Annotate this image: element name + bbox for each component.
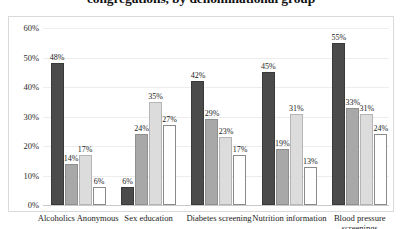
bar-value-label: 17%	[233, 145, 248, 154]
bar-value-label: 45%	[261, 62, 276, 71]
bar	[290, 114, 303, 205]
chart-title: congregations, by denominational group	[0, 0, 402, 6]
bar-column: 14%	[65, 28, 78, 205]
bar-group-bars: 42%29%23%17%	[184, 28, 254, 205]
axis-baseline	[43, 205, 389, 206]
bar-column: 24%	[374, 28, 387, 205]
bar-column: 31%	[360, 28, 373, 205]
bar-group-bars: 48%14%17%6%	[43, 28, 113, 205]
bar-column: 24%	[135, 28, 148, 205]
bar-group: 42%29%23%17%	[184, 28, 254, 205]
bar-column: 17%	[233, 28, 246, 205]
bar-value-label: 6%	[94, 177, 105, 186]
bar-value-label: 24%	[373, 124, 388, 133]
bar-column: 13%	[304, 28, 317, 205]
bar-value-label: 48%	[50, 53, 65, 62]
bar-column: 6%	[93, 28, 106, 205]
bar-column: 42%	[191, 28, 204, 205]
bar-column: 55%	[332, 28, 345, 205]
y-axis-tick-label: 0%	[9, 200, 39, 210]
bar-value-label: 35%	[148, 92, 163, 101]
bar-value-label: 31%	[359, 104, 374, 113]
bar-column: 48%	[51, 28, 64, 205]
bar-value-label: 17%	[78, 145, 93, 154]
bar-column: 29%	[205, 28, 218, 205]
bar-column: 19%	[276, 28, 289, 205]
bar	[233, 155, 246, 205]
category-label: Blood pressure screenings	[319, 214, 401, 229]
bar-group: 55%33%31%24%	[325, 28, 395, 205]
bar	[191, 81, 204, 205]
bar-value-label: 13%	[303, 157, 318, 166]
bar-column: 23%	[219, 28, 232, 205]
plot-area: 48%14%17%6%6%24%35%27%42%29%23%17%45%19%…	[43, 28, 395, 205]
bar	[93, 187, 106, 205]
bar-value-label: 19%	[275, 139, 290, 148]
bar-value-label: 29%	[205, 109, 220, 118]
bar	[163, 125, 176, 205]
bar	[262, 72, 275, 205]
bar-group-bars: 55%33%31%24%	[325, 28, 395, 205]
bar	[276, 149, 289, 205]
bar	[51, 63, 64, 205]
bar	[304, 167, 317, 205]
bar-column: 6%	[121, 28, 134, 205]
bar-column: 17%	[79, 28, 92, 205]
bar	[346, 108, 359, 205]
bar-group: 45%19%31%13%	[254, 28, 324, 205]
bar	[149, 102, 162, 205]
bar-column: 27%	[163, 28, 176, 205]
bar-value-label: 33%	[345, 98, 360, 107]
bar-column: 35%	[149, 28, 162, 205]
bar-column: 31%	[290, 28, 303, 205]
bar-value-label: 42%	[191, 71, 206, 80]
bar-group-bars: 45%19%31%13%	[254, 28, 324, 205]
bar	[65, 164, 78, 205]
bar	[360, 114, 373, 205]
bar-value-label: 14%	[64, 154, 79, 163]
bar-value-label: 31%	[289, 104, 304, 113]
bar	[332, 43, 345, 205]
bar-group: 48%14%17%6%	[43, 28, 113, 205]
bar-value-label: 24%	[134, 124, 149, 133]
y-axis-tick-label: 40%	[9, 82, 39, 92]
bar	[219, 137, 232, 205]
bar-value-label: 55%	[331, 33, 346, 42]
bar-column: 33%	[346, 28, 359, 205]
bar-group-bars: 6%24%35%27%	[113, 28, 183, 205]
y-axis-tick-label: 20%	[9, 141, 39, 151]
bar	[135, 134, 148, 205]
y-axis-tick-label: 50%	[9, 53, 39, 63]
bar-value-label: 27%	[162, 115, 177, 124]
chart-screenshot: congregations, by denominational group 0…	[0, 0, 402, 229]
bar	[374, 134, 387, 205]
bar-value-label: 6%	[122, 177, 133, 186]
y-axis-tick-label: 60%	[9, 23, 39, 33]
plot-frame: 0%10%20%30%40%50%60% 48%14%17%6%6%24%35%…	[8, 16, 394, 212]
bar-group: 6%24%35%27%	[113, 28, 183, 205]
bar	[121, 187, 134, 205]
bar	[205, 119, 218, 205]
bar-value-label: 23%	[219, 127, 234, 136]
bar	[79, 155, 92, 205]
y-axis-tick-label: 30%	[9, 112, 39, 122]
y-axis-tick-label: 10%	[9, 171, 39, 181]
bar-column: 45%	[262, 28, 275, 205]
